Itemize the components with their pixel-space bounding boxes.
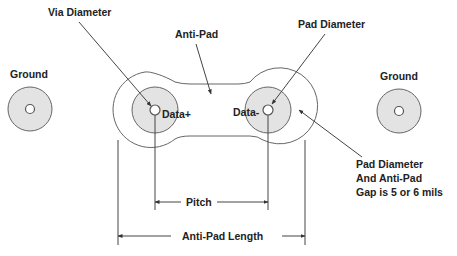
pitch-label: Pitch bbox=[186, 196, 212, 208]
anti-pad-label: Anti-Pad bbox=[175, 28, 218, 40]
anti-pad-leader bbox=[196, 44, 211, 94]
data-plus-label: Data+ bbox=[162, 108, 191, 120]
gap-note-line2: And Anti-Pad bbox=[356, 172, 422, 184]
gap-note-leader bbox=[299, 110, 362, 157]
ground-left-label: Ground bbox=[10, 68, 48, 80]
pad-diameter-label: Pad Diameter bbox=[298, 18, 365, 30]
differential-via-diagram: Ground Ground Data+ Data- Via Diameter A… bbox=[0, 0, 457, 256]
ground-via-right bbox=[377, 89, 421, 133]
ground-right-label: Ground bbox=[380, 70, 418, 82]
gap-note-line1: Pad Diameter bbox=[356, 158, 423, 170]
via-diameter-label: Via Diameter bbox=[48, 6, 111, 18]
gap-note-line3: Gap is 5 or 6 mils bbox=[356, 186, 443, 198]
ground-via-left bbox=[8, 87, 52, 131]
via-diameter-leader bbox=[79, 22, 151, 106]
pad-diameter-leader bbox=[272, 34, 325, 104]
anti-pad-length-label: Anti-Pad Length bbox=[182, 230, 263, 242]
data-minus-label: Data- bbox=[233, 106, 260, 118]
